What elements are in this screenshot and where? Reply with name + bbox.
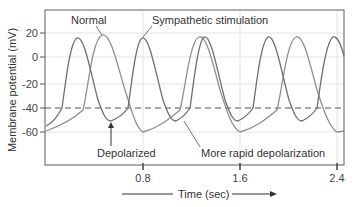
grid-lines	[45, 10, 344, 165]
normal-curve	[46, 35, 344, 132]
x-tick-2-4: 2.4	[329, 172, 344, 184]
x-axis-ticks	[143, 163, 337, 170]
y-axis-label: Membrane potential (mV)	[6, 28, 18, 152]
up-arrow-icon	[108, 122, 114, 128]
y-tick-minus-60: -60	[22, 126, 38, 138]
y-tick-minus-40: -40	[22, 102, 38, 114]
rapid-leader	[184, 121, 200, 147]
normal-leader	[96, 26, 102, 35]
x-tick-1-6: 1.6	[232, 172, 247, 184]
depolarized-label: Depolarized	[97, 147, 156, 159]
right-arrow-icon	[270, 191, 277, 197]
y-tick-20: 20	[26, 27, 38, 39]
y-axis-ticks	[40, 33, 45, 132]
sympathetic-curve	[46, 37, 344, 126]
normal-label: Normal	[71, 14, 106, 26]
x-tick-0-8: 0.8	[135, 172, 150, 184]
membrane-potential-chart: 20 0 -20 -40 -60 Membrane potential (mV)…	[0, 0, 356, 207]
rapid-depolarization-label: More rapid depolarization	[201, 147, 325, 159]
y-tick-minus-20: -20	[22, 78, 38, 90]
sympathetic-label: Sympathetic stimulation	[152, 14, 268, 26]
x-axis-label: Time (sec)	[178, 188, 230, 200]
y-tick-0: 0	[32, 51, 38, 63]
sympathetic-leader	[143, 26, 152, 37]
